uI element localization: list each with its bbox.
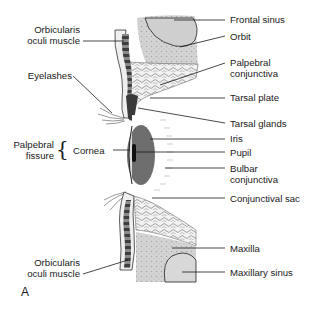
label-bulbar-conjunctiva: Bulbarconjunctiva xyxy=(230,163,278,185)
eyelid-cross-section-diagram: Frontal sinus Orbit Palpebralconjunctiva… xyxy=(0,0,323,312)
label-text: Eyelashes xyxy=(28,70,72,81)
label-frontal-sinus: Frontal sinus xyxy=(230,14,285,25)
brace-symbol: { xyxy=(56,139,69,159)
label-orbicularis-lower: Orbicularisoculi muscle xyxy=(27,257,80,279)
label-text: Frontal sinus xyxy=(230,14,285,25)
label-text: Tarsal plate xyxy=(230,92,279,103)
label-text: Conjunctival sac xyxy=(230,193,300,204)
label-text: oculi muscle xyxy=(27,35,80,46)
label-pupil: Pupil xyxy=(230,147,251,158)
label-text: Orbicularis xyxy=(34,257,80,268)
label-iris: Iris xyxy=(230,133,243,144)
pupil-shape xyxy=(132,144,136,162)
orbital-fat-upper xyxy=(128,62,198,110)
label-tarsal-glands: Tarsal glands xyxy=(230,118,287,129)
label-tarsal-plate: Tarsal plate xyxy=(230,92,279,103)
panel-label: A xyxy=(21,285,29,299)
label-text: Iris xyxy=(230,133,243,144)
label-conjunctival-sac: Conjunctival sac xyxy=(230,193,300,204)
eyeball xyxy=(127,115,200,195)
label-eyelashes: Eyelashes xyxy=(28,70,72,81)
label-maxillary-sinus: Maxillary sinus xyxy=(230,267,293,278)
label-text: conjunctiva xyxy=(230,174,278,185)
label-text: conjunctiva xyxy=(230,68,278,79)
cornea-shape xyxy=(129,126,132,184)
label-text: Tarsal glands xyxy=(230,118,287,129)
label-text: Cornea xyxy=(73,145,104,156)
label-palpebral-conjunctiva: Palpebralconjunctiva xyxy=(230,57,278,79)
label-text: fissure xyxy=(26,150,54,161)
label-text: Orbit xyxy=(230,31,251,42)
label-text: Palpebral xyxy=(13,139,54,150)
upper-eyelashes xyxy=(98,108,125,124)
label-text: Bulbar xyxy=(230,163,258,174)
label-maxilla: Maxilla xyxy=(230,243,260,254)
label-text: Orbicularis xyxy=(34,24,80,35)
label-orbit: Orbit xyxy=(230,31,251,42)
label-palpebral-fissure: Palpebralfissure xyxy=(13,139,54,161)
label-text: Maxillary sinus xyxy=(230,267,293,278)
label-cornea: Cornea xyxy=(73,145,104,156)
label-text: Pupil xyxy=(230,147,251,158)
frontal-bone-region xyxy=(137,15,198,70)
label-orbicularis-upper: Orbicularisoculi muscle xyxy=(27,24,80,46)
label-text: oculi muscle xyxy=(27,268,80,279)
label-text: Palpebral xyxy=(230,57,271,68)
label-text: Maxilla xyxy=(230,243,260,254)
